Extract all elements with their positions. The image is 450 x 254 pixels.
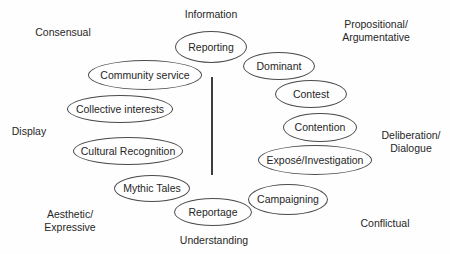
node-cultural-recognition: Cultural Recognition <box>73 137 183 165</box>
diagram-canvas: Information Consensual Propositional/ Ar… <box>0 0 450 254</box>
region-label-display: Display <box>12 125 46 138</box>
region-label-propositional-argumentative: Propositional/ Argumentative <box>342 18 410 43</box>
region-label-consensual: Consensual <box>35 26 90 39</box>
node-dominant: Dominant <box>243 52 315 80</box>
region-label-information: Information <box>185 8 238 21</box>
node-campaigning: Campaigning <box>248 184 328 215</box>
node-contest: Contest <box>275 80 347 108</box>
node-contention: Contention <box>283 113 357 142</box>
region-label-aesthetic-expressive: Aesthetic/ Expressive <box>44 208 95 233</box>
region-label-deliberation-dialogue: Deliberation/ Dialogue <box>382 129 441 154</box>
region-label-understanding: Understanding <box>180 234 248 247</box>
node-mythic-tales: Mythic Tales <box>114 175 190 202</box>
node-reporting: Reporting <box>175 31 247 63</box>
node-expose-investigation: Exposé/Investigation <box>258 145 372 175</box>
node-reportage: Reportage <box>174 198 252 226</box>
node-community-service: Community service <box>88 60 202 90</box>
region-label-conflictual: Conflictual <box>360 217 409 230</box>
central-axis-line <box>211 77 213 175</box>
node-collective-interests: Collective interests <box>67 95 173 123</box>
